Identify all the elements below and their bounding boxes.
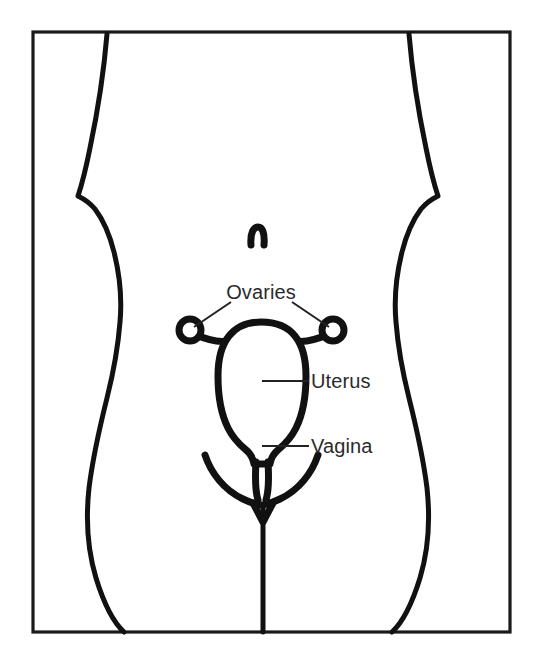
label-vagina: Vagina <box>311 435 373 457</box>
label-uterus: Uterus <box>311 370 371 392</box>
vaginal-canal <box>255 462 258 500</box>
ovary-right <box>322 319 344 341</box>
label-ovaries: Ovaries <box>226 281 296 303</box>
ovary-left <box>179 319 201 341</box>
anatomy-figure: Ovaries Uterus Vagina <box>0 0 541 666</box>
anatomy-diagram-canvas: Ovaries Uterus Vagina <box>0 0 541 666</box>
vaginal-canal-right-wall <box>266 462 269 500</box>
